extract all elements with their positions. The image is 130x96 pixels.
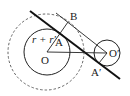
label-b: B bbox=[70, 10, 77, 22]
segment-o-o-prime bbox=[47, 52, 107, 53]
label-o-prime: O′ bbox=[109, 47, 119, 59]
label-o: O bbox=[41, 54, 49, 66]
segment-o-prime-a-prime bbox=[99, 53, 107, 63]
label-radius-sum: r + r′ bbox=[32, 33, 56, 45]
label-a-prime: A′ bbox=[91, 66, 101, 78]
tangent-line-b bbox=[56, 13, 107, 53]
geometry-diagram: B A O O′ A′ r + r′ bbox=[0, 0, 130, 96]
label-a: A bbox=[55, 36, 63, 48]
